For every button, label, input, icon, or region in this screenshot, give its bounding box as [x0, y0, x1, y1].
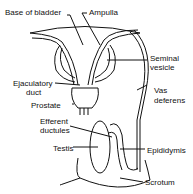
label-seminal-vesicle-2: vesicle [150, 63, 174, 72]
label-vas-deferens-2: deferens [154, 96, 185, 105]
label-ejaculatory-duct: Ejaculatory [13, 79, 53, 88]
epididymis [110, 124, 138, 170]
label-testis: Testis [53, 144, 73, 153]
anatomy-diagram: Base of bladder Ampulla Seminal vesicle … [0, 0, 193, 194]
label-scrotum: Scrotum [145, 178, 175, 187]
prostate [72, 88, 99, 108]
label-epididymis: Epididymis [147, 146, 186, 155]
label-ejaculatory-duct-2: duct [26, 88, 41, 97]
label-base-of-bladder: Base of bladder [5, 8, 61, 17]
label-ampulla: Ampulla [89, 8, 118, 17]
label-prostate: Prostate [31, 101, 61, 110]
label-efferent-ductules: Efferent [40, 117, 68, 126]
label-vas-deferens: Vas [154, 86, 167, 95]
label-seminal-vesicle: Seminal [150, 54, 179, 63]
bladder-outline [30, 27, 140, 34]
label-efferent-ductules-2: ductules [40, 126, 70, 135]
